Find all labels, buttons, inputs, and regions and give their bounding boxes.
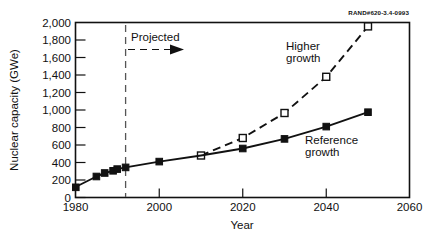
projected-label: Projected: [131, 31, 180, 43]
reference-growth-point-2020: [239, 145, 246, 152]
y-tick-label-1800: 1,800: [42, 34, 71, 46]
y-tick-label-1400: 1,400: [42, 69, 71, 81]
reference-growth-point-2000: [156, 158, 163, 165]
x-axis-tick-labels: 1980 2000 2020 2040 2060: [63, 201, 423, 213]
higher-growth-point-2040: [323, 73, 330, 80]
x-tick-label-2060: 2060: [397, 201, 423, 213]
higher-growth-point-2030: [281, 110, 288, 117]
reference-growth-point-2030: [281, 136, 288, 143]
higher-growth-label-line1: Higher: [286, 40, 320, 52]
y-tick-label-1200: 1,200: [42, 87, 71, 99]
x-tick-label-1980: 1980: [63, 201, 89, 213]
reference-growth-label-line2: growth: [305, 146, 340, 158]
higher-growth-label-line2: growth: [286, 52, 321, 64]
y-axis-ticks: [76, 40, 86, 198]
x-axis-ticks: [159, 189, 326, 198]
x-tick-label-2040: 2040: [313, 201, 339, 213]
reference-growth-point-1990: [114, 166, 121, 173]
higher-growth-point-2020: [239, 135, 246, 142]
nuclear-capacity-chart: RAND#620-3.4-0993 0 200 400 600 800 1,00…: [0, 0, 430, 245]
reference-growth-point-1987: [101, 170, 108, 177]
figure-container: RAND#620-3.4-0993 0 200 400 600 800 1,00…: [0, 0, 430, 245]
reference-growth-point-1985: [93, 173, 100, 180]
rand-document-id: RAND#620-3.4-0993: [348, 9, 409, 16]
y-tick-label-200: 200: [52, 174, 71, 186]
y-tick-label-1000: 1,000: [42, 104, 71, 116]
y-tick-label-2000: 2,000: [42, 17, 71, 29]
y-tick-label-1600: 1,600: [42, 52, 71, 64]
reference-growth-point-2040: [323, 123, 330, 130]
y-axis-tick-labels: 0 200 400 600 800 1,000 1,200 1,400 1,60…: [42, 17, 71, 204]
y-tick-label-400: 400: [52, 157, 71, 169]
x-tick-label-2000: 2000: [146, 201, 172, 213]
reference-growth-point-1992: [122, 164, 129, 171]
reference-growth-label-line1: Reference: [305, 134, 358, 146]
higher-growth-point-2050: [365, 23, 372, 30]
y-tick-label-800: 800: [52, 122, 71, 134]
y-axis-title: Nuclear capacity (GWe): [8, 49, 20, 171]
x-tick-label-2020: 2020: [230, 201, 256, 213]
reference-growth-point-1980: [73, 184, 80, 191]
projected-arrow-head-icon: [170, 45, 184, 55]
reference-growth-point-2050: [365, 109, 372, 116]
y-tick-label-600: 600: [52, 139, 71, 151]
x-axis-title: Year: [230, 219, 253, 231]
